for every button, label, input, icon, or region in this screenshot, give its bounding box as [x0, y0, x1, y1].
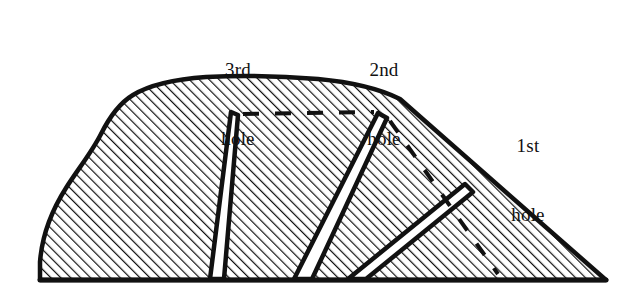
- label-2nd-hole-line2: hole: [342, 127, 426, 150]
- label-1st-hole-line2: hole: [486, 203, 570, 226]
- label-3rd-hole-line1: 3rd: [196, 58, 280, 81]
- label-1st-hole-line1: 1st: [486, 134, 570, 157]
- label-2nd-hole-line1: 2nd: [342, 58, 426, 81]
- label-3rd-hole: 3rd hole: [196, 12, 280, 196]
- label-2nd-hole: 2nd hole: [342, 12, 426, 196]
- figure-root: 3rd hole 2nd hole 1st hole: [0, 0, 633, 300]
- label-1st-hole: 1st hole: [486, 88, 570, 272]
- label-3rd-hole-line2: hole: [196, 127, 280, 150]
